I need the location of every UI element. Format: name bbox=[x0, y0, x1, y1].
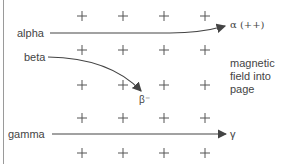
field-note-line: magnetic bbox=[230, 57, 275, 70]
field-note: magnetic field into page bbox=[230, 57, 275, 96]
alpha-path bbox=[50, 26, 225, 33]
alpha-output-label: α (++) bbox=[230, 19, 265, 31]
beta-output-label: β⁻ bbox=[139, 94, 150, 106]
gamma-output-label: γ bbox=[230, 128, 236, 140]
field-note-line: page bbox=[230, 83, 275, 96]
beta-input-label: beta bbox=[24, 51, 45, 63]
alpha-input-label: alpha bbox=[17, 27, 44, 39]
field-note-line: field into bbox=[230, 70, 275, 83]
beta-path bbox=[48, 57, 141, 91]
gamma-input-label: gamma bbox=[8, 128, 45, 140]
